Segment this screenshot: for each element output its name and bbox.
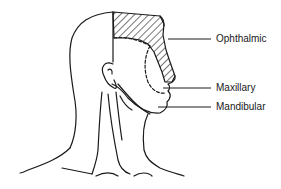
trigeminal-diagram: Ophthalmic Maxillary Mandibular [0,0,281,189]
head-illustration [0,0,281,189]
label-mandibular: Mandibular [216,101,265,113]
label-ophthalmic: Ophthalmic [216,33,267,45]
ophthalmic-region [113,12,175,82]
label-maxillary: Maxillary [216,82,255,94]
